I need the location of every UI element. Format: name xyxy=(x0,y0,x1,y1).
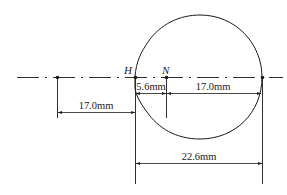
right-point-dot xyxy=(261,76,265,80)
dimension-label-h-to-n: 5.6mm xyxy=(136,81,165,92)
circle-outline xyxy=(135,15,262,139)
point-label-n: N xyxy=(161,64,170,76)
dimension-label-total: 22.6mm xyxy=(182,151,217,162)
point-label-h: H xyxy=(123,64,133,76)
dimension-label-n-to-right: 17.0mm xyxy=(196,81,231,92)
dimension-label-left-span: 17.0mm xyxy=(79,100,114,111)
diagram-canvas: H N 17.0mm 5.6mm 17.0mm 22.6mm xyxy=(0,0,287,195)
h-point-dot xyxy=(134,76,138,80)
n-point-dot xyxy=(165,76,169,80)
left-point-dot xyxy=(56,76,60,80)
